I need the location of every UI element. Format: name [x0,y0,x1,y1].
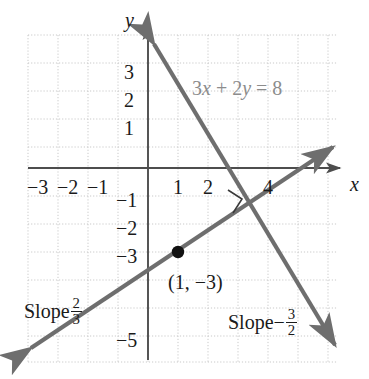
equation-var-x: x [202,77,211,99]
slope-right-numerator: 3 [286,307,297,322]
equation-var-y: y [242,77,251,99]
slope-right-word: Slope [228,311,274,333]
x-tick-label-neg1: −1 [87,177,108,197]
equation-plus: + [216,77,227,99]
slope-right-sign: − [274,311,285,333]
slope-left-label: Slope23 [24,296,83,327]
slope-right-label: Slope−32 [228,307,298,338]
y-axis-label: y [125,10,134,30]
data-point-marker [172,246,184,258]
slope-left-word: Slope [24,300,70,322]
slope-right-fraction: 32 [286,307,297,338]
equation-coef-b: 2 [232,77,242,99]
x-axis-label: x [350,174,359,194]
graph-figure: y x 3 2 1 −1 −2 −3 −5 −3 −2 −1 1 2 4 3x … [0,0,369,379]
slope-right-denominator: 2 [286,322,297,338]
y-tick-label-neg2: −2 [116,218,137,238]
x-tick-label-neg2: −2 [57,177,78,197]
x-tick-label-neg3: −3 [27,177,48,197]
x-tick-label-2: 2 [203,177,213,197]
slope-left-fraction: 23 [71,296,82,327]
y-tick-label-1: 1 [124,118,134,138]
equation-equals: = [256,77,267,99]
y-tick-label-3: 3 [124,62,134,82]
equation-rhs: 8 [272,77,282,99]
x-tick-label-1: 1 [173,177,183,197]
slope-left-numerator: 2 [71,296,82,311]
point-coordinate-label: (1, −3) [168,272,223,292]
x-tick-label-4: 4 [263,177,273,197]
slope-left-denominator: 3 [71,311,82,327]
equation-label: 3x + 2y = 8 [192,78,282,98]
y-tick-label-neg5: −5 [116,330,137,350]
y-tick-label-neg1: −1 [116,190,137,210]
y-tick-label-2: 2 [124,90,134,110]
equation-coef-a: 3 [192,77,202,99]
y-tick-label-neg3: −3 [116,246,137,266]
